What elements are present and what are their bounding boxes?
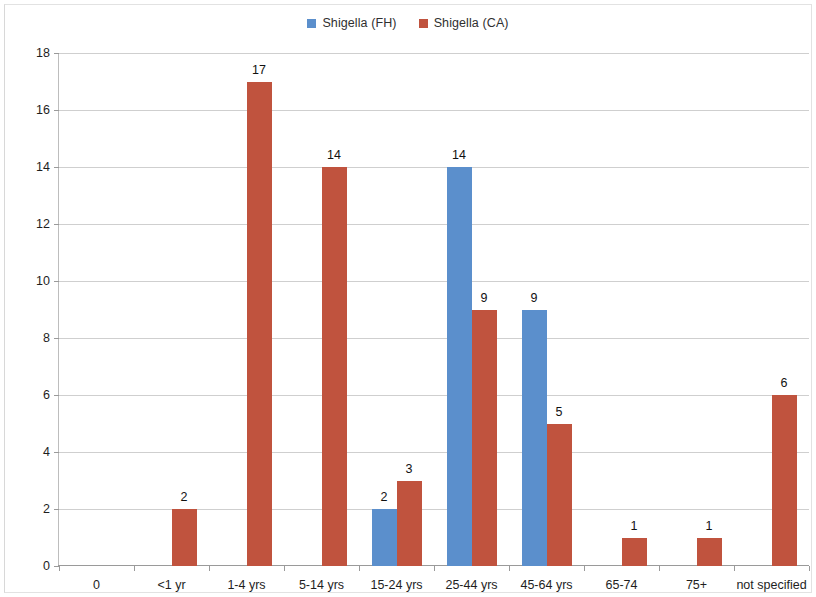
- y-tick-label: 4: [43, 445, 50, 459]
- bar-slot: 5: [547, 53, 572, 566]
- bar-group: 171-4 yrs: [209, 53, 284, 566]
- bar-value-label: 6: [781, 376, 788, 390]
- bar-slot: [747, 53, 772, 566]
- bar-slot: 14: [322, 53, 347, 566]
- bar-group: 6not specified: [734, 53, 809, 566]
- x-tick-mark: [659, 566, 660, 571]
- bar-slot: [672, 53, 697, 566]
- bar[interactable]: [772, 395, 797, 566]
- chart-page: Shigella (FH) Shigella (CA) 024681012141…: [0, 0, 816, 597]
- bar-value-label: 1: [631, 519, 638, 533]
- x-axis-label: 0: [59, 578, 134, 592]
- plot-area: 024681012141618 02<1 yr171-4 yrs145-14 y…: [59, 53, 809, 566]
- chart-legend: Shigella (FH) Shigella (CA): [0, 16, 816, 30]
- legend-label-fh: Shigella (FH): [322, 16, 396, 30]
- x-tick-mark: [734, 566, 735, 571]
- bar-group: 9545-64 yrs: [509, 53, 584, 566]
- bar-group-bars: 1: [584, 53, 659, 566]
- bar-value-label: 2: [181, 490, 188, 504]
- bar-slot: 2: [372, 53, 397, 566]
- bar-value-label: 14: [327, 148, 341, 162]
- bar-value-label: 2: [381, 490, 388, 504]
- bar-slot: [147, 53, 172, 566]
- y-tick-label: 14: [36, 160, 50, 174]
- y-tick-label: 12: [36, 217, 50, 231]
- bar-group-bars: 23: [359, 53, 434, 566]
- bar-slot: 14: [447, 53, 472, 566]
- x-axis-label: 65-74: [584, 578, 659, 592]
- x-axis-label: <1 yr: [134, 578, 209, 592]
- x-axis-label: 15-24 yrs: [359, 578, 434, 592]
- bar-slot: [72, 53, 97, 566]
- bar-group-bars: 6: [734, 53, 809, 566]
- x-tick-mark: [584, 566, 585, 571]
- bar-slot: 2: [172, 53, 197, 566]
- bar-group: 165-74: [584, 53, 659, 566]
- bar-slot: 9: [522, 53, 547, 566]
- bar-slot: [222, 53, 247, 566]
- bar-slot: 3: [397, 53, 422, 566]
- bar[interactable]: [622, 538, 647, 567]
- x-tick-mark: [59, 566, 60, 571]
- bar-group: 145-14 yrs: [284, 53, 359, 566]
- bar-group: 14925-44 yrs: [434, 53, 509, 566]
- bar-slot: 9: [472, 53, 497, 566]
- x-tick-mark: [209, 566, 210, 571]
- bar[interactable]: [522, 310, 547, 567]
- bar[interactable]: [447, 167, 472, 566]
- bar-slot: [297, 53, 322, 566]
- x-tick-mark: [284, 566, 285, 571]
- bar[interactable]: [247, 82, 272, 567]
- x-axis-label: 75+: [659, 578, 734, 592]
- x-tick-mark: [809, 566, 810, 571]
- bar-group-bars: [59, 53, 134, 566]
- bar-slot: 6: [772, 53, 797, 566]
- bar-value-label: 3: [406, 462, 413, 476]
- x-axis-label: 5-14 yrs: [284, 578, 359, 592]
- y-tick-label: 2: [43, 502, 50, 516]
- bar[interactable]: [372, 509, 397, 566]
- x-axis-label: not specified: [734, 578, 809, 592]
- bar-group-bars: 17: [209, 53, 284, 566]
- bar[interactable]: [547, 424, 572, 567]
- bar[interactable]: [472, 310, 497, 567]
- x-axis-label: 25-44 yrs: [434, 578, 509, 592]
- x-tick-mark: [134, 566, 135, 571]
- y-tick-label: 0: [43, 559, 50, 573]
- x-axis-label: 1-4 yrs: [209, 578, 284, 592]
- x-tick-mark: [434, 566, 435, 571]
- bar-group: 2315-24 yrs: [359, 53, 434, 566]
- bar-value-label: 17: [252, 63, 266, 77]
- x-axis-label: 45-64 yrs: [509, 578, 584, 592]
- bar-group-bars: 95: [509, 53, 584, 566]
- bar-group: 2<1 yr: [134, 53, 209, 566]
- legend-label-ca: Shigella (CA): [434, 16, 509, 30]
- y-tick-label: 6: [43, 388, 50, 402]
- y-tick-label: 8: [43, 331, 50, 345]
- bar-value-label: 14: [452, 148, 466, 162]
- legend-item-ca: Shigella (CA): [419, 16, 509, 30]
- bar-slot: [597, 53, 622, 566]
- bar-slot: 1: [622, 53, 647, 566]
- y-tick-label: 16: [36, 103, 50, 117]
- y-tick-label: 10: [36, 274, 50, 288]
- legend-swatch-ca: [419, 19, 428, 28]
- bar[interactable]: [397, 481, 422, 567]
- bar-group-bars: 2: [134, 53, 209, 566]
- bar[interactable]: [172, 509, 197, 566]
- y-tick-label: 18: [36, 46, 50, 60]
- bar[interactable]: [697, 538, 722, 567]
- x-tick-mark: [509, 566, 510, 571]
- bar-group-bars: 149: [434, 53, 509, 566]
- bar-group: 0: [59, 53, 134, 566]
- bar-group-bars: 1: [659, 53, 734, 566]
- bar-value-label: 1: [706, 519, 713, 533]
- x-tick-mark: [359, 566, 360, 571]
- bar-group: 175+: [659, 53, 734, 566]
- bar-slot: [97, 53, 122, 566]
- bar-value-label: 9: [481, 291, 488, 305]
- bar-group-bars: 14: [284, 53, 359, 566]
- bar-value-label: 9: [531, 291, 538, 305]
- bar[interactable]: [322, 167, 347, 566]
- legend-swatch-fh: [307, 19, 316, 28]
